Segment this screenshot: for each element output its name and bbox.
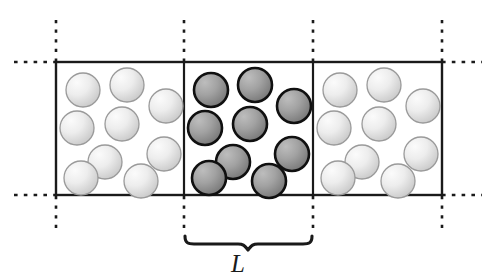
particle — [381, 164, 415, 198]
diagram-canvas — [0, 0, 490, 279]
particle — [404, 137, 438, 171]
periodic-boundary-diagram: L — [0, 0, 490, 279]
particle — [252, 164, 286, 198]
particle — [233, 107, 267, 141]
particle — [362, 107, 396, 141]
box-length-label: L — [231, 250, 245, 278]
particle — [147, 137, 181, 171]
particle — [323, 73, 357, 107]
particle — [105, 107, 139, 141]
particle — [275, 137, 309, 171]
particle — [192, 161, 226, 195]
particle — [149, 89, 183, 123]
brace-path — [185, 236, 312, 250]
particle — [64, 161, 98, 195]
particle — [238, 68, 272, 102]
particle — [194, 73, 228, 107]
particle — [317, 111, 351, 145]
particle — [406, 89, 440, 123]
particle — [60, 111, 94, 145]
particle — [124, 164, 158, 198]
particle — [110, 68, 144, 102]
particle — [277, 89, 311, 123]
length-brace — [185, 236, 312, 250]
particle — [367, 68, 401, 102]
particle — [321, 161, 355, 195]
particle — [66, 73, 100, 107]
particle — [188, 111, 222, 145]
